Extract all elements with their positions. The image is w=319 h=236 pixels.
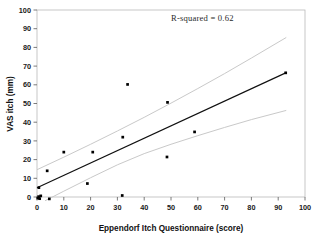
y-axis-title: VAS itch (mm) (6, 76, 15, 132)
data-point (46, 169, 49, 172)
y-tick-label: 80 (23, 43, 31, 52)
r-squared-annotation: R-squared = 0.62 (171, 13, 234, 23)
data-point (91, 151, 94, 154)
x-tick-label: 10 (60, 203, 68, 212)
chart-page: 0102030405060708090100 01020304050607080… (0, 0, 319, 236)
x-tick-label: 20 (87, 203, 95, 212)
y-tick-label: 70 (23, 62, 31, 71)
data-point (38, 197, 41, 200)
data-point (121, 136, 124, 139)
data-point (48, 198, 51, 201)
y-tick-label: 0 (27, 193, 31, 202)
data-point (193, 131, 196, 134)
x-axis-title: Eppendorf Itch Questionnaire (score) (99, 224, 244, 233)
data-point (86, 182, 89, 185)
y-tick-label: 90 (23, 24, 31, 33)
y-axis-tick-labels: 0102030405060708090100 (19, 6, 31, 202)
y-tick-label: 20 (23, 155, 31, 164)
x-tick-label: 50 (167, 203, 175, 212)
x-tick-label: 40 (140, 203, 148, 212)
x-tick-label: 30 (113, 203, 121, 212)
regression-line (37, 73, 286, 188)
y-tick-label: 100 (19, 6, 31, 15)
x-tick-label: 0 (35, 203, 39, 212)
y-tick-label: 60 (23, 80, 31, 89)
x-axis-tick-labels: 0102030405060708090100 (35, 203, 311, 212)
y-tick-label: 40 (23, 118, 31, 127)
data-point (166, 156, 169, 159)
x-tick-label: 70 (221, 203, 229, 212)
data-point (62, 151, 65, 154)
y-axis-ticks (34, 10, 38, 197)
x-tick-label: 100 (299, 203, 311, 212)
y-tick-label: 10 (23, 174, 31, 183)
scatter-plot: 0102030405060708090100 01020304050607080… (0, 0, 319, 236)
data-point (121, 194, 124, 197)
data-point (284, 71, 287, 74)
x-tick-label: 60 (194, 203, 202, 212)
upper-confidence-band (37, 37, 286, 169)
data-point (39, 195, 42, 198)
data-point-markers (36, 71, 287, 200)
data-point (126, 83, 129, 86)
y-tick-label: 50 (23, 99, 31, 108)
data-point (38, 186, 41, 189)
data-point (166, 101, 169, 104)
x-tick-label: 80 (247, 203, 255, 212)
x-tick-label: 90 (274, 203, 282, 212)
y-tick-label: 30 (23, 137, 31, 146)
lower-confidence-band (45, 110, 286, 200)
x-axis-ticks (37, 197, 305, 201)
